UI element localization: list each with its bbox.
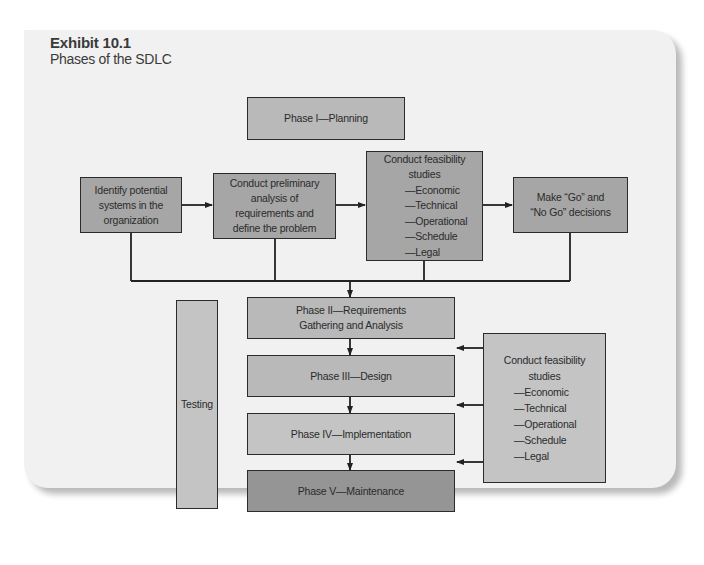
- feasibility-item: —Schedule: [405, 229, 467, 245]
- feasibility-item: —Technical: [405, 198, 467, 214]
- box-text: systems in the: [99, 198, 163, 213]
- feasibility-item: —Legal: [405, 245, 467, 261]
- feasibility-item: —Operational: [514, 416, 576, 432]
- box-text: Phase IV—Implementation: [291, 427, 411, 442]
- feasibility-item: —Technical: [514, 400, 576, 416]
- box-text: Phase III—Design: [310, 369, 391, 384]
- phase-1-planning-box: Phase I—Planning: [247, 97, 405, 140]
- testing-label: Testing: [181, 397, 213, 412]
- preliminary-analysis-box: Conduct preliminary analysis of requirem…: [213, 173, 336, 239]
- go-no-go-box: Make “Go” and “No Go” decisions: [513, 177, 628, 233]
- identify-systems-box: Identify potential systems in the organi…: [80, 177, 182, 233]
- box-text: Gathering and Analysis: [299, 318, 403, 333]
- box-text: analysis of: [251, 191, 298, 206]
- box-text: Phase V—Maintenance: [298, 484, 405, 499]
- box-text: Identify potential: [95, 183, 168, 198]
- box-text: Conduct preliminary: [230, 176, 320, 191]
- box-text: requirements and: [235, 206, 314, 221]
- testing-box: Testing: [176, 300, 218, 509]
- box-text: studies: [409, 167, 441, 183]
- exhibit-subtitle: Phases of the SDLC: [50, 51, 171, 67]
- feasibility-item: —Economic: [405, 183, 467, 199]
- feasibility-item: —Economic: [514, 384, 576, 400]
- box-text: studies: [529, 368, 561, 384]
- box-text: define the problem: [233, 221, 316, 236]
- box-text: Conduct feasibility: [504, 352, 585, 368]
- phase-1-label: Phase I—Planning: [284, 111, 368, 126]
- phase-5-maintenance-box: Phase V—Maintenance: [247, 470, 455, 512]
- side-feasibility-studies-box: Conduct feasibility studies —Economic —T…: [483, 333, 606, 483]
- phase-2-requirements-box: Phase II—Requirements Gathering and Anal…: [247, 297, 455, 339]
- box-text: “No Go” decisions: [530, 205, 611, 220]
- box-text: Make “Go” and: [537, 190, 604, 205]
- box-text: organization: [104, 213, 159, 228]
- box-text: Conduct feasibility: [384, 152, 465, 168]
- feasibility-item: —Schedule: [514, 432, 576, 448]
- exhibit-title: Exhibit 10.1: [50, 34, 131, 51]
- box-text: Phase II—Requirements: [296, 303, 406, 318]
- feasibility-studies-box: Conduct feasibility studies —Economic —T…: [366, 151, 483, 261]
- feasibility-item: —Legal: [514, 448, 576, 464]
- feasibility-item: —Operational: [405, 214, 467, 230]
- phase-3-design-box: Phase III—Design: [247, 355, 455, 397]
- phase-4-implementation-box: Phase IV—Implementation: [247, 413, 455, 455]
